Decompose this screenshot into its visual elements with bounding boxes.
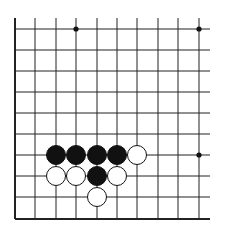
black-stone — [108, 146, 127, 165]
white-stone — [88, 188, 107, 207]
white-stone — [108, 167, 127, 186]
white-stone — [47, 167, 66, 186]
white-stone — [67, 167, 86, 186]
white-stone — [128, 146, 147, 165]
black-stone — [88, 146, 107, 165]
star-point-icon — [73, 26, 78, 31]
board-grid — [15, 18, 210, 219]
black-stone — [88, 167, 107, 186]
star-point-icon — [196, 26, 201, 31]
star-point-icon — [196, 152, 201, 157]
black-stone — [67, 146, 86, 165]
go-board — [0, 0, 226, 237]
black-stone — [47, 146, 66, 165]
